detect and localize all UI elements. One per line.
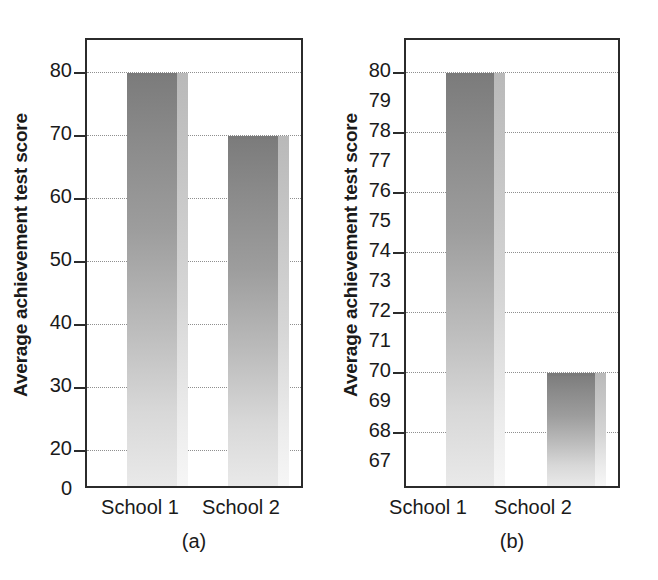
y-tick-label-b-69: 69 xyxy=(351,390,391,410)
y-tick-label-a-20: 20 xyxy=(26,438,72,458)
y-tick-label-b-77: 77 xyxy=(351,150,391,170)
y-tick-label-b-78: 78 xyxy=(351,120,391,140)
bar-a-school-2-cap xyxy=(228,136,278,139)
y-tick-label-a-50: 50 xyxy=(26,249,72,269)
caption-a: (a) xyxy=(134,530,254,552)
tick-b-68 xyxy=(393,432,404,434)
y-tick-label-b-72: 72 xyxy=(351,300,391,320)
tick-a-80 xyxy=(74,72,85,74)
bar-b-school-1-cap xyxy=(446,73,494,76)
y-tick-label-b-68: 68 xyxy=(351,420,391,440)
y-tick-label-a-30: 30 xyxy=(26,375,72,395)
tick-b-78 xyxy=(393,132,404,134)
x-tick-label-b-school-2: School 2 xyxy=(478,496,588,518)
y-tick-label-b-71: 71 xyxy=(351,330,391,350)
bar-a-school-1-cap xyxy=(127,73,177,76)
y-tick-label-a-80: 80 xyxy=(26,60,72,80)
y-tick-label-a-0: 0 xyxy=(26,478,72,498)
tick-b-76 xyxy=(393,192,404,194)
chart-panel-a: Average achievement test score 80 70 60 … xyxy=(0,0,330,580)
tick-a-60 xyxy=(74,198,85,200)
y-tick-label-a-70: 70 xyxy=(26,123,72,143)
y-tick-label-b-80: 80 xyxy=(351,60,391,80)
gridline-b-74 xyxy=(406,252,618,253)
y-tick-label-b-75: 75 xyxy=(351,210,391,230)
bar-a-school-2 xyxy=(228,136,278,486)
y-tick-label-b-70: 70 xyxy=(351,360,391,380)
y-tick-label-a-60: 60 xyxy=(26,186,72,206)
y-tick-label-b-73: 73 xyxy=(351,270,391,290)
tick-b-72 xyxy=(393,312,404,314)
gridline-b-72 xyxy=(406,312,618,313)
y-tick-label-b-79: 79 xyxy=(351,90,391,110)
bar-b-school-1 xyxy=(446,73,494,486)
chart-panel-b: Average achievement test score 80 79 78 … xyxy=(330,0,658,580)
x-tick-label-b-school-1: School 1 xyxy=(373,496,483,518)
tick-a-70 xyxy=(74,135,85,137)
tick-b-70 xyxy=(393,372,404,374)
bar-a-school-1 xyxy=(127,73,177,486)
y-tick-label-b-74: 74 xyxy=(351,240,391,260)
caption-b: (b) xyxy=(452,530,572,552)
gridline-b-80 xyxy=(406,72,618,73)
y-tick-label-a-40: 40 xyxy=(26,312,72,332)
plot-area-b xyxy=(404,38,620,488)
tick-b-74 xyxy=(393,252,404,254)
y-tick-label-b-67: 67 xyxy=(351,450,391,470)
gridline-b-78 xyxy=(406,132,618,133)
tick-a-20 xyxy=(74,450,85,452)
tick-a-30 xyxy=(74,387,85,389)
x-tick-label-a-school-1: School 1 xyxy=(85,496,195,518)
tick-a-50 xyxy=(74,261,85,263)
bar-b-school-2-cap xyxy=(547,373,595,376)
gridline-a-80 xyxy=(87,72,301,73)
x-tick-label-a-school-2: School 2 xyxy=(186,496,296,518)
tick-a-40 xyxy=(74,324,85,326)
y-tick-label-b-76: 76 xyxy=(351,180,391,200)
gridline-b-76 xyxy=(406,192,618,193)
bar-b-school-2 xyxy=(547,373,595,486)
plot-area-a xyxy=(85,38,303,488)
tick-b-80 xyxy=(393,72,404,74)
